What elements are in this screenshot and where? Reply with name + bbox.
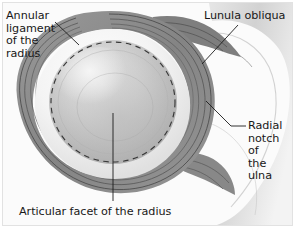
illustration-plate: Annular ligament of the radius Lunula ob… <box>2 2 293 226</box>
label-radial-notch-of-the-ulna: Radial notch of the ulna <box>248 120 292 183</box>
label-lunula-obliqua: Lunula obliqua <box>204 10 285 23</box>
figure-root: Annular ligament of the radius Lunula ob… <box>0 0 295 235</box>
label-articular-facet-of-the-radius: Articular facet of the radius <box>19 206 171 219</box>
label-annular-ligament: Annular ligament of the radius <box>6 10 55 60</box>
